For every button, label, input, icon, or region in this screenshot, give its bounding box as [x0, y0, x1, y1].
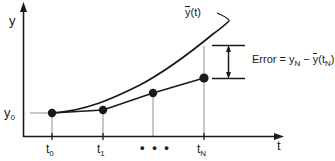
overbar — [313, 53, 318, 54]
data-point — [199, 73, 208, 82]
y-axis-label: y — [9, 14, 16, 27]
y-axis-arrowhead — [20, 2, 27, 12]
y-origin-label: y0 — [4, 106, 15, 119]
ybar-base: y — [313, 53, 319, 65]
tick-label-sub: 1 — [100, 149, 104, 158]
error-label-sub-n2: N — [325, 59, 331, 68]
ybar-glyph: y — [313, 54, 319, 65]
error-label-paren-close: ) — [331, 53, 335, 65]
error-label-prefix: Error = y — [252, 53, 294, 65]
ybar-glyph: y — [185, 7, 191, 18]
ybar-base: y — [185, 6, 191, 18]
tick-label-sub: 0 — [49, 149, 53, 158]
exact-solution-curve — [52, 21, 229, 113]
error-bar — [212, 45, 245, 79]
tick-label-t1: t1 — [97, 143, 105, 155]
overbar — [185, 6, 190, 7]
error-label-sub-n1: N — [294, 59, 300, 68]
numerical-solution-polyline — [52, 78, 204, 113]
tick-label-t0: t0 — [46, 143, 54, 155]
y-origin-base: y — [4, 105, 11, 120]
tick-label-ellipsis: • • • — [140, 141, 171, 154]
guide-droplines — [52, 78, 204, 136]
tick-label-sub: N — [200, 149, 206, 158]
y-origin-subscript: 0 — [11, 113, 15, 122]
curve-label-paren: (t) — [191, 6, 201, 18]
error-label: Error = yN − y(tN) — [252, 54, 335, 65]
curve-label-ybar-t: y(t) — [185, 7, 201, 18]
data-point — [99, 106, 107, 114]
error-label-minus: − — [300, 53, 313, 65]
data-point — [149, 89, 157, 97]
tick-label-tN: tN — [197, 143, 206, 155]
axes — [23, 8, 277, 137]
data-point — [48, 109, 56, 117]
curve-label-leader — [217, 13, 229, 20]
x-axis-label: t — [277, 139, 281, 152]
